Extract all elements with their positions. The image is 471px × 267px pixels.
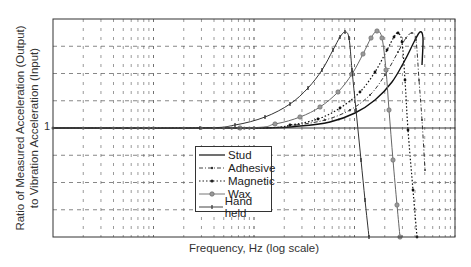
line-dotted-icon [198, 176, 226, 186]
legend-item-magnetic: Magnetic [198, 174, 275, 187]
line-circle-marker-icon [198, 189, 226, 199]
legend: Stud Adhesive Magnetic Wax Hand held [195, 146, 272, 212]
y-axis-label-line2: to Vibration Acceleration (Input) [27, 25, 41, 230]
chart-canvas [0, 0, 471, 267]
legend-item-stud: Stud [198, 148, 252, 161]
legend-item-adhesive: Adhesive [198, 161, 275, 174]
x-axis-label: Frequency, Hz (log scale) [53, 242, 455, 254]
line-tick-marker-icon [198, 202, 223, 212]
legend-item-hand-held: Hand held [198, 200, 271, 213]
line-dashdot-icon [198, 163, 226, 173]
y-tick-one: 1 [44, 120, 50, 132]
line-solid-icon [198, 150, 226, 160]
y-axis-label-line1: Ratio of Measured Acceleration (Output) [13, 25, 27, 230]
